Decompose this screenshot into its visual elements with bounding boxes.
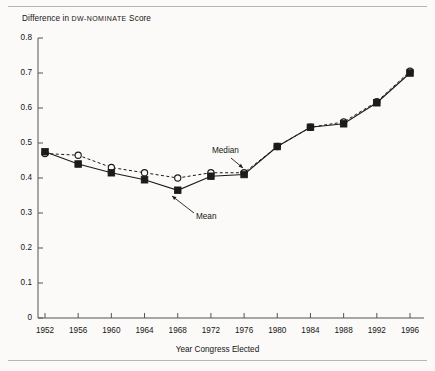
y-tick-label: 0.8 [6, 33, 32, 42]
axes-group [38, 38, 424, 318]
y-tick-label: 0.4 [6, 173, 32, 182]
series-label-median: Median [212, 146, 239, 155]
y-tick-label: 0.3 [6, 208, 32, 217]
y-tick-label: 0.6 [6, 103, 32, 112]
x-tick-label: 1996 [390, 326, 430, 335]
series-mean [42, 70, 414, 194]
tick-marks-group [38, 38, 410, 318]
y-tick-label: 0.2 [6, 243, 32, 252]
y-tick-label: 0 [6, 313, 32, 322]
x-axis-title: Year Congress Elected [0, 345, 435, 354]
y-tick-label: 0.1 [6, 278, 32, 287]
y-tick-label: 0.7 [6, 68, 32, 77]
annotation-leaders [172, 158, 243, 213]
figure-container: Difference in DW-NOMINATE Score 00.10.20… [0, 0, 435, 371]
series-label-mean: Mean [196, 212, 216, 221]
y-tick-label: 0.5 [6, 138, 32, 147]
plot-area [0, 0, 435, 371]
series-median [42, 68, 413, 181]
